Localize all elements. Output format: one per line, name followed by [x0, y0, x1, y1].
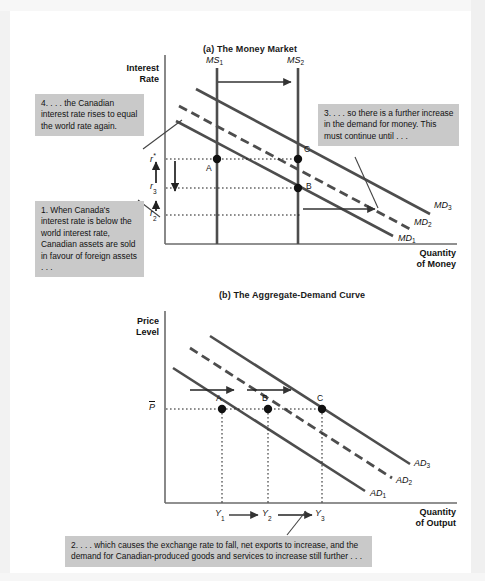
page-frame-bottom	[0, 573, 485, 581]
panel-b-price-tick-text: P	[149, 401, 155, 412]
panel-a-md2-label-sub: 2	[428, 221, 432, 228]
panel-b-y2-tick: Y2	[262, 508, 272, 520]
panel-a-y-axis-label-line2: Rate	[93, 74, 159, 85]
panel-a-x-axis-label-line1: Quantity	[376, 248, 456, 259]
panel-a-point-b	[294, 184, 302, 192]
page-frame-right	[471, 0, 485, 581]
panel-a-md1-label-sub: 1	[412, 237, 416, 244]
panel-a-md2-label-text: MD	[414, 217, 428, 227]
panel-a-ms2-label: MS2	[287, 55, 304, 65]
page-frame-top	[0, 0, 485, 11]
panel-b-point-a	[218, 405, 226, 413]
panel-b-price-tick: P	[149, 401, 155, 412]
panel-a-rate-guides	[166, 159, 300, 215]
panel-a-rstar-tick: r*	[150, 152, 156, 164]
panel-a-md3-label: MD3	[434, 200, 452, 210]
panel-b-point-c-label: C	[317, 393, 323, 403]
figure-page: (a) The Money Market Interest Rate Quant…	[0, 0, 485, 581]
panel-b-ad1-label: AD1	[370, 488, 386, 498]
panel-a-md1-label-text: MD	[398, 233, 412, 243]
panel-a-title: (a) The Money Market	[203, 44, 297, 54]
panel-b-x-axis-label: Quantity of Output	[376, 507, 456, 529]
panel-b-ad2-label-sub: 2	[409, 479, 413, 486]
panel-b-point-c	[318, 405, 326, 413]
panel-b-x-axis-label-line1: Quantity	[376, 507, 456, 518]
panel-a-rstar-tick-sup: *	[153, 152, 156, 159]
panel-b-y-axis-label-line2: Level	[103, 327, 159, 338]
panel-b-ad3-curve	[210, 336, 410, 464]
panel-a-x-axis-label: Quantity of Money	[376, 248, 456, 270]
panel-b-ad3-label-sub: 3	[427, 462, 431, 469]
panel-a-md2-label: MD2	[414, 217, 432, 227]
panel-a-md1-label: MD1	[398, 233, 416, 243]
panel-b-y1-tick-sub: 1	[221, 515, 225, 522]
panel-b-ad1-label-text: AD	[370, 488, 383, 498]
panel-a-ms1-label: MS1	[206, 55, 223, 65]
panel-a-r3-tick: r3	[150, 181, 157, 193]
panel-b-ad2-label: AD2	[396, 475, 412, 485]
panel-a-md3-label-text: MD	[434, 200, 448, 210]
panel-a-ms2-label-text: MS	[287, 55, 301, 65]
panel-b-ad2-label-text: AD	[396, 475, 409, 485]
callout-note-3: 3. . . . so there is a further increase …	[318, 104, 459, 146]
panel-a-ms1-label-text: MS	[206, 55, 220, 65]
figure-canvas: (a) The Money Market Interest Rate Quant…	[10, 11, 471, 573]
panel-b-ad1-label-sub: 1	[383, 492, 387, 499]
panel-a-point-c-label: C	[304, 144, 310, 154]
panel-a-r3-tick-sub: 3	[153, 188, 157, 195]
panel-b-y3-tick: Y3	[315, 508, 325, 520]
panel-b-x-axis-label-line2: of Output	[376, 518, 456, 529]
panel-a-y-axis-label: Interest Rate	[93, 63, 159, 85]
panel-b-title: (b) The Aggregate-Demand Curve	[219, 290, 365, 300]
callout-note-2: 2. . . . which causes the exchange rate …	[65, 536, 372, 567]
panel-a-x-axis-label-line2: of Money	[376, 259, 456, 270]
panel-a-md3-label-sub: 3	[448, 204, 452, 211]
panel-a-ms1-label-sub: 1	[220, 59, 224, 66]
panel-b-output-guides	[222, 409, 322, 503]
panel-a-ms2-label-sub: 2	[301, 59, 305, 66]
callout-note-4: 4. . . . the Canadian interest rate rise…	[35, 94, 144, 136]
panel-a-point-a-label: A	[206, 163, 212, 173]
panel-b-y2-tick-sub: 2	[268, 515, 272, 522]
panel-b-y-axis-label-line1: Price	[103, 316, 159, 327]
panel-b-y1-tick: Y1	[215, 508, 225, 520]
page-frame-left	[0, 0, 10, 581]
panel-b-ad2-curve	[190, 348, 392, 478]
panel-b-ad1-curve	[173, 368, 365, 491]
panel-a-point-a	[213, 155, 221, 163]
panel-a-point-b-label: B	[306, 181, 312, 191]
panel-b-axes	[165, 311, 457, 503]
panel-b-point-b-label: B	[262, 393, 268, 403]
panel-b-ad3-label-text: AD	[414, 458, 427, 468]
panel-b-y-axis-label: Price Level	[103, 316, 159, 338]
panel-a-r2-tick-sub: 2	[153, 215, 157, 222]
panel-b-point-b	[264, 405, 272, 413]
panel-b-point-a-label: A	[216, 393, 222, 403]
panel-a-note4-leader	[143, 120, 182, 149]
panel-a-y-axis-label-line1: Interest	[93, 63, 159, 74]
panel-b-y3-tick-sub: 3	[321, 515, 325, 522]
panel-b-ad3-label: AD3	[414, 458, 430, 468]
panel-a-r2-tick: r2	[150, 208, 157, 220]
panel-a-point-c	[294, 155, 302, 163]
callout-note-1: 1. When Canada's interest rate is below …	[35, 201, 144, 277]
